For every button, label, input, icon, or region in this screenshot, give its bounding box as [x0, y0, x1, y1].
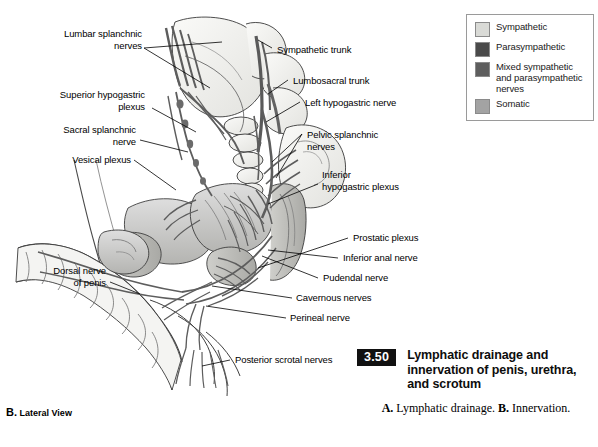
figure-subcaption-a-letter: A. — [382, 401, 394, 415]
figure-heading: 3.50 Lymphatic drainage and innervation … — [357, 348, 595, 392]
legend-box: Sympathetic Parasympathetic Mixed sympat… — [466, 14, 594, 121]
color-swatch-parasympathetic — [475, 42, 490, 57]
figure-page: Lumbar splanchnic nerves Superior hypoga… — [0, 0, 598, 447]
callout-lumbar-splanchnic-nerves: Lumbar splanchnic nerves — [32, 28, 142, 51]
color-swatch-sympathetic — [475, 22, 490, 37]
legend-label-somatic: Somatic — [496, 98, 530, 109]
anatomical-illustration — [0, 0, 460, 400]
callout-vesical-plexus: Vesical plexus — [54, 154, 131, 166]
figure-subcaption-b-text: Innervation. — [512, 401, 570, 415]
figure-caption-block: 3.50 Lymphatic drainage and innervation … — [357, 348, 595, 415]
callout-inferior-hypogastric-plexus: Inferior hypogastric plexus — [322, 169, 434, 192]
callout-superior-hypogastric-plexus: Superior hypogastric plexus — [32, 89, 145, 112]
figure-title: Lymphatic drainage and innervation of pe… — [407, 348, 595, 392]
color-swatch-somatic — [475, 99, 490, 114]
view-caption-letter: B. — [6, 406, 17, 418]
legend-item-parasympathetic: Parasympathetic — [475, 41, 587, 57]
callout-pudendal-nerve: Pudendal nerve — [323, 272, 433, 284]
legend-item-somatic: Somatic — [475, 98, 587, 114]
callout-dorsal-nerve-of-penis: Dorsal nerve of penis — [24, 265, 106, 288]
callout-pelvic-splanchnic-nerves: Pelvic splanchnic nerves — [307, 129, 413, 152]
view-caption: B. Lateral View — [6, 406, 72, 418]
color-swatch-mixed — [475, 62, 490, 77]
callout-cavernous-nerves: Cavernous nerves — [296, 292, 408, 304]
legend-label-parasympathetic: Parasympathetic — [496, 41, 565, 52]
figure-subcaption-a-text: Lymphatic drainage. — [396, 401, 495, 415]
legend-label-sympathetic: Sympathetic — [496, 21, 547, 32]
view-caption-text: Lateral View — [20, 408, 72, 418]
legend-label-mixed: Mixed sympathetic and parasympathetic ne… — [496, 61, 587, 94]
callout-left-hypogastric-nerve: Left hypogastric nerve — [305, 97, 435, 109]
callout-posterior-scrotal-nerves: Posterior scrotal nerves — [235, 354, 375, 366]
callout-perineal-nerve: Perineal nerve — [290, 312, 390, 324]
legend-item-sympathetic: Sympathetic — [475, 21, 587, 37]
figure-subcaption: A. Lymphatic drainage. B. Innervation. — [357, 401, 595, 415]
callout-sacral-splanchnic-nerve: Sacral splanchnic nerve — [36, 124, 136, 147]
callout-prostatic-plexus: Prostatic plexus — [353, 232, 463, 244]
figure-subcaption-b-letter: B. — [498, 401, 509, 415]
callout-lumbosacral-trunk: Lumbosacral trunk — [293, 75, 413, 87]
callout-sympathetic-trunk: Sympathetic trunk — [277, 44, 397, 56]
legend-item-mixed: Mixed sympathetic and parasympathetic ne… — [475, 61, 587, 94]
figure-number-badge: 3.50 — [357, 349, 396, 366]
bladder-prostate-rectum — [190, 184, 306, 286]
callout-inferior-anal-nerve: Inferior anal nerve — [343, 252, 458, 264]
